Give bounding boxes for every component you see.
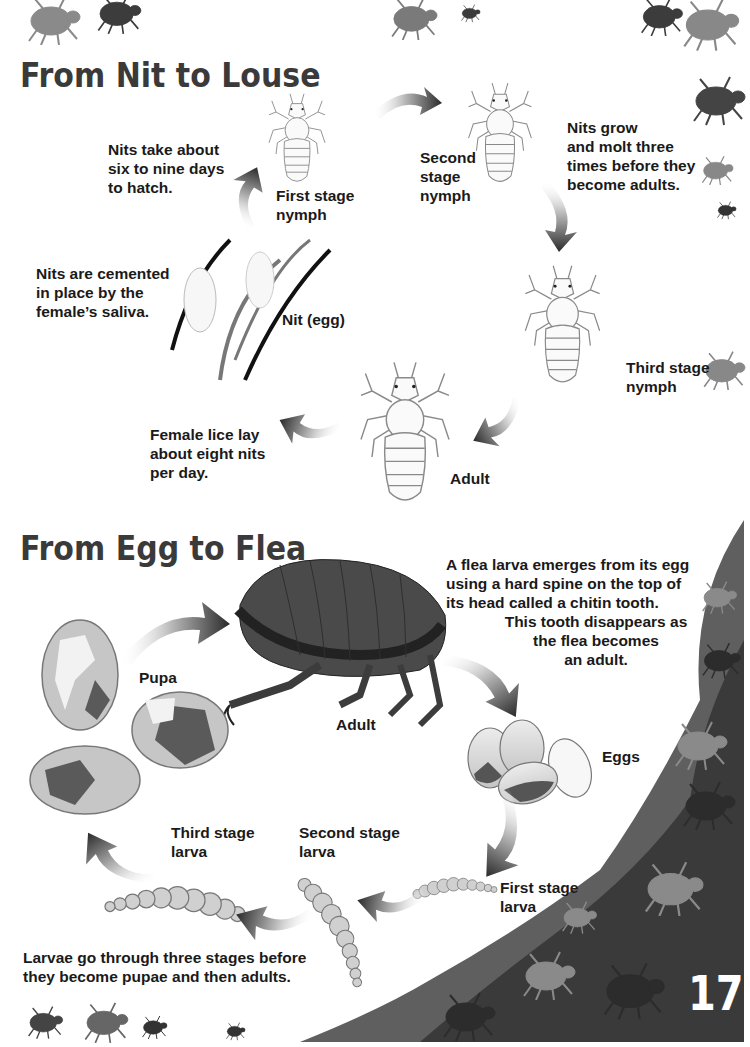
decorative-insect-silhouettes-bottom-left [0, 995, 260, 1047]
caption-larvae-stages: Larvae go through three stages before th… [23, 948, 306, 986]
adult-louse-illustration [350, 345, 460, 525]
cycle-arrow-icon [228, 168, 268, 228]
caption-hatch-time: Nits take about six to nine days to hatc… [108, 140, 224, 197]
first-stage-nymph-illustration [262, 90, 332, 190]
label-first-stage-larva: First stage larva [500, 878, 578, 916]
label-eggs: Eggs [602, 747, 640, 766]
cycle-arrow-icon [280, 405, 340, 455]
label-nit-egg: Nit (egg) [282, 310, 345, 329]
caption-cemented: Nits are cemented in place by the female… [36, 264, 170, 321]
cycle-arrow-icon [120, 600, 230, 660]
cycle-arrow-icon [232, 890, 312, 950]
label-second-stage-nymph: Second stage nymph [420, 148, 476, 205]
caption-lay-eggs: Female lice lay about eight nits per day… [150, 425, 265, 482]
label-third-stage-nymph: Third stage nymph [626, 358, 710, 396]
cycle-arrow-icon [372, 85, 442, 125]
cycle-arrow-icon [355, 880, 425, 930]
third-stage-nymph-illustration [515, 262, 610, 392]
label-third-stage-larva: Third stage larva [171, 823, 255, 861]
cycle-arrow-icon [82, 820, 152, 900]
cycle-arrow-icon [465, 790, 535, 880]
label-adult-louse: Adult [450, 469, 490, 488]
label-first-stage-nymph: First stage nymph [276, 186, 354, 224]
cycle-arrow-icon [470, 395, 530, 450]
label-pupa: Pupa [139, 668, 177, 687]
adult-flea-illustration [220, 555, 450, 735]
label-second-stage-larva: Second stage larva [299, 823, 400, 861]
caption-molt: Nits grow and molt three times before th… [567, 118, 695, 194]
label-adult-flea: Adult [336, 715, 376, 734]
caption-tooth-disappears: This tooth disappears as the flea become… [476, 612, 716, 669]
caption-chitin-tooth: A flea larva emerges from its egg using … [446, 555, 689, 612]
page-number: 17 [688, 965, 744, 1020]
